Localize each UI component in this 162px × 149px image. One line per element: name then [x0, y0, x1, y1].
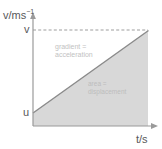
- annotation-area-line1: area =: [88, 80, 107, 87]
- y-axis-title-main: v/ms: [3, 9, 26, 21]
- velocity-time-graph-figure: v/ms−1 v u t/s gradient =acceleration ar…: [0, 0, 162, 149]
- y-tick-label-v: v: [24, 24, 30, 35]
- annotation-area-displacement: area =displacement: [88, 81, 126, 95]
- x-axis-arrowhead-icon: [151, 123, 158, 129]
- annotation-gradient-line2: acceleration: [55, 51, 93, 58]
- annotation-gradient-line1: gradient =: [55, 43, 86, 50]
- annotation-area-line2: displacement: [88, 89, 126, 96]
- y-axis-title-exponent: −1: [26, 8, 34, 15]
- y-axis-title: v/ms−1: [3, 8, 34, 21]
- y-tick-label-u: u: [23, 107, 29, 118]
- x-axis-title: t/s: [136, 134, 148, 145]
- annotation-gradient-acceleration: gradient =acceleration: [55, 43, 93, 58]
